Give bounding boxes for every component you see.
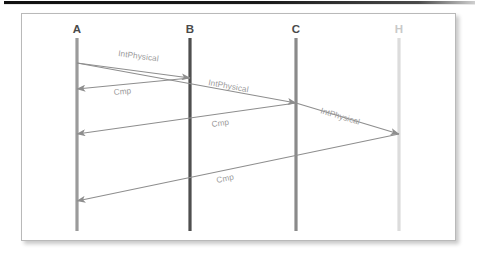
message-arrow-m4 bbox=[77, 103, 296, 134]
message-label-m4: Cmp bbox=[211, 118, 230, 129]
lifeline-label-C: C bbox=[292, 23, 301, 35]
message-label-m3: IntPhysical bbox=[208, 78, 250, 94]
message-arrow-m3 bbox=[77, 63, 296, 103]
message-arrow-m2 bbox=[77, 78, 190, 89]
message-label-m5: IntPhysical bbox=[319, 106, 361, 126]
lifeline-label-H: H bbox=[395, 23, 404, 35]
sequence-diagram-frame: ABCH IntPhysicalCmpIntPhysicalCmpIntPhys… bbox=[21, 13, 456, 241]
lifeline-label-B: B bbox=[186, 23, 195, 35]
page-top-edge-highlight bbox=[4, 4, 475, 5]
message-arrow-m1 bbox=[77, 63, 190, 78]
message-label-m2: Cmp bbox=[113, 86, 132, 97]
message-arrow-m6 bbox=[77, 134, 399, 201]
message-label-m1: IntPhysical bbox=[118, 49, 160, 63]
lifeline-label-A: A bbox=[73, 23, 82, 35]
messages-group: IntPhysicalCmpIntPhysicalCmpIntPhysicalC… bbox=[77, 49, 399, 201]
sequence-diagram-svg: ABCH IntPhysicalCmpIntPhysicalCmpIntPhys… bbox=[22, 14, 455, 240]
message-label-m6: Cmp bbox=[216, 172, 235, 184]
page-root: ABCH IntPhysicalCmpIntPhysicalCmpIntPhys… bbox=[0, 0, 479, 262]
sequence-diagram-canvas: ABCH IntPhysicalCmpIntPhysicalCmpIntPhys… bbox=[22, 14, 455, 240]
